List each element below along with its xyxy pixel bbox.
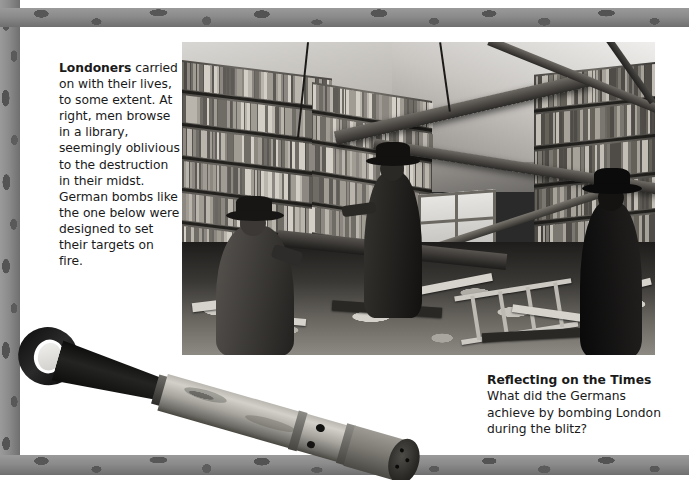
photo-book-spine: [192, 195, 194, 222]
camouflage-border-top: [0, 8, 689, 27]
photo-book-spine: [189, 129, 192, 156]
photo-book-spine: [200, 97, 203, 124]
photo-book-spine: [210, 131, 213, 158]
photo-book-spine: [189, 194, 191, 221]
photo-book-spine: [271, 73, 273, 100]
photo-book-spine: [323, 86, 325, 111]
photo-book-spine: [264, 138, 267, 165]
photo-book-spine: [288, 75, 291, 102]
photo-book-spine: [564, 111, 566, 143]
library-bomb-damage-photo: [182, 42, 655, 355]
photo-book-spine: [653, 214, 655, 246]
photo-book-spine: [627, 104, 631, 136]
photo-book-spine: [223, 67, 226, 94]
photo-book-spine: [315, 207, 319, 232]
photo-book-spine: [254, 104, 257, 131]
photo-book-spine: [360, 92, 363, 117]
photo-book-spine: [549, 112, 551, 144]
photo-book-spine: [203, 163, 207, 190]
photo-book-spine: [214, 99, 216, 126]
photo-book-spine: [231, 68, 235, 95]
incendiary-bomb-artifact: [18, 318, 474, 458]
photo-book-spine: [252, 71, 254, 98]
photo-book-spine: [247, 103, 250, 130]
photo-book-spine: [574, 110, 577, 142]
photo-book-spine: [227, 68, 229, 95]
bomb-tail-cone: [51, 338, 167, 412]
photo-figure-man-right: [572, 162, 652, 355]
photo-book-spine: [203, 97, 206, 124]
photo-book-spine: [192, 162, 194, 189]
photo-book-spine: [556, 112, 559, 144]
photo-book-spine: [342, 89, 344, 114]
photo-book-spine: [186, 161, 189, 188]
photo-book-spine: [278, 139, 281, 166]
photo-book-spine: [233, 101, 236, 128]
photo-book-spine: [230, 101, 233, 128]
question-text: What did the Germans achieve by bombing …: [487, 389, 661, 436]
photo-figure-man-center: [358, 138, 430, 318]
photo-book-spine: [225, 133, 227, 160]
photo-book-spine: [580, 109, 582, 141]
photo-book-spine: [210, 65, 212, 92]
caption-lead-word: Londoners: [59, 61, 131, 75]
photo-book-spine: [217, 66, 219, 93]
photo-book-spine: [372, 94, 375, 119]
photo-book-spine: [637, 103, 640, 135]
reflecting-question-block: Reflecting on the Times What did the Ger…: [487, 372, 662, 437]
question-heading: Reflecting on the Times: [487, 372, 662, 388]
photo-book-spine: [322, 147, 324, 172]
photo-book-spine: [281, 107, 284, 134]
photo-book-spine: [275, 106, 277, 133]
photo-book-spine: [337, 180, 339, 205]
photo-book-spine: [196, 129, 199, 156]
photo-book-spine: [620, 105, 624, 137]
photo-book-spine: [241, 102, 244, 129]
photo-book-spine: [217, 132, 219, 159]
photo-book-spine: [271, 139, 274, 166]
photo-book-spine: [260, 137, 262, 164]
photo-book-spine: [560, 111, 563, 143]
photo-book-spine: [302, 142, 305, 169]
photo-book-spine: [566, 110, 570, 142]
photo-book-spine: [209, 98, 212, 125]
photo-book-spine: [342, 150, 345, 175]
photo-book-spine: [343, 181, 346, 206]
caption-body: carried on with their lives, to some ext…: [59, 61, 180, 268]
photo-book-spine: [193, 63, 196, 90]
photo-book-spine: [652, 64, 655, 96]
photo-book-spine: [336, 88, 339, 113]
photo-book-spine: [333, 179, 336, 204]
photo-book-spine: [203, 130, 207, 157]
photo-book-spine: [199, 64, 202, 91]
photo-book-spine: [588, 108, 590, 140]
photo-book-spine: [349, 213, 351, 238]
photo-book-spine: [313, 115, 316, 140]
photo-book-spine: [316, 146, 319, 171]
photo-book-spine: [213, 132, 215, 159]
photo-caption: Londoners carried on with their lives, t…: [59, 60, 181, 269]
photo-book-spine: [652, 139, 655, 171]
photo-book-spine: [230, 134, 233, 161]
photo-book-spine: [197, 162, 200, 189]
photo-book-spine: [187, 63, 190, 90]
photo-book-spine: [336, 211, 340, 236]
photo-book-spine: [182, 62, 184, 89]
photo-book-spine: [602, 107, 605, 139]
photo-book-spine: [186, 95, 189, 122]
photo-book-spine: [288, 141, 290, 168]
textbook-page: Londoners carried on with their lives, t…: [0, 0, 689, 480]
photo-book-spine: [281, 74, 283, 101]
photo-book-spine: [333, 149, 335, 174]
